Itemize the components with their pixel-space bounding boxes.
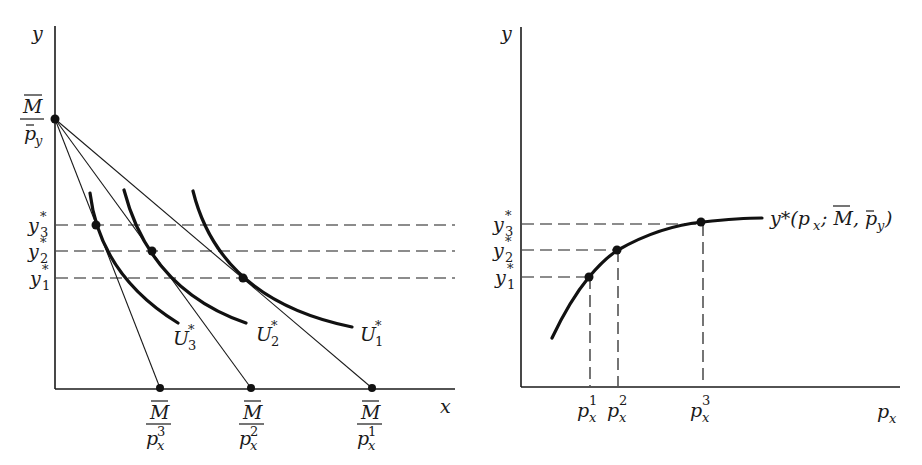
- svg-text:x: x: [368, 438, 376, 453]
- right-x-tick-px2: p 2 x: [607, 393, 627, 425]
- svg-text:2: 2: [250, 424, 258, 439]
- label-u2: U * 2: [256, 318, 279, 349]
- svg-text:x: x: [589, 410, 597, 425]
- tangency-point-3: [92, 221, 101, 230]
- svg-text:y: y: [494, 266, 506, 288]
- left-x-tick-m-over-px2: M p 2 x: [239, 401, 264, 453]
- svg-text:M: M: [22, 95, 43, 117]
- right-x-tick-px3: p 3 x: [690, 393, 710, 425]
- svg-text:1: 1: [589, 393, 597, 408]
- tangency-point-2: [148, 247, 157, 256]
- left-x-axis-label: x: [440, 395, 451, 417]
- x-intercept-1: [368, 384, 376, 392]
- x-intercept-2: [247, 384, 255, 392]
- indifference-curve-u2: [124, 190, 246, 323]
- svg-text:*: *: [42, 262, 49, 277]
- y-intercept-label: M p y: [20, 95, 44, 148]
- left-x-tick-m-over-px1: M p 1 x: [357, 401, 382, 453]
- svg-text:*: *: [505, 208, 512, 223]
- demand-point-3: [697, 218, 706, 227]
- label-u1: U * 1: [360, 318, 383, 349]
- svg-text:y: y: [27, 214, 39, 236]
- svg-text:*: *: [188, 322, 195, 337]
- demand-curve: [552, 218, 762, 338]
- svg-text:p: p: [690, 399, 702, 421]
- right-x-tick-px1: p 1 x: [577, 393, 597, 425]
- svg-text:1: 1: [368, 424, 376, 439]
- svg-text:y: y: [34, 133, 43, 148]
- budget-line-1: [55, 119, 372, 388]
- svg-text:*: *: [505, 234, 512, 249]
- x-intercept-3: [156, 384, 164, 392]
- svg-text:x: x: [250, 438, 258, 453]
- svg-text:; M, p: ; M, p: [820, 207, 877, 229]
- demand-point-1: [585, 273, 594, 282]
- svg-text:M: M: [242, 401, 263, 423]
- svg-text:3: 3: [157, 424, 165, 439]
- svg-text:x: x: [813, 218, 821, 233]
- svg-text:p: p: [607, 399, 619, 421]
- right-y-tick-y1: y * 1: [494, 261, 515, 292]
- svg-text:p: p: [577, 399, 589, 421]
- left-y-axis-label: y: [31, 22, 43, 44]
- svg-text:3: 3: [188, 338, 196, 353]
- svg-text:x: x: [157, 438, 165, 453]
- right-panel: y p x y * 3 y * 2 y * 1: [492, 22, 900, 426]
- right-x-axis-label: p x: [877, 400, 897, 426]
- svg-text:y: y: [492, 239, 504, 261]
- svg-text:x: x: [889, 411, 897, 426]
- svg-text:M: M: [149, 401, 170, 423]
- svg-text:2: 2: [271, 334, 279, 349]
- svg-text:x: x: [619, 410, 627, 425]
- svg-text:y: y: [492, 213, 504, 235]
- indifference-curve-u1: [193, 191, 352, 327]
- label-u3: U * 3: [173, 322, 196, 353]
- svg-text:3: 3: [702, 393, 710, 408]
- svg-text:y*(p: y*(p: [769, 207, 810, 229]
- svg-text:*: *: [40, 235, 47, 250]
- svg-text:1: 1: [375, 334, 383, 349]
- left-y-tick-y1: y * 1: [29, 262, 50, 293]
- svg-text:1: 1: [507, 277, 515, 292]
- svg-text:y: y: [29, 267, 41, 289]
- svg-text:M: M: [360, 401, 381, 423]
- intercept-point: [51, 115, 60, 124]
- left-panel: y x M p y y *: [20, 22, 455, 453]
- right-y-axis-label: y: [500, 22, 512, 44]
- svg-text:*: *: [40, 209, 47, 224]
- tangency-point-1: [239, 274, 248, 283]
- svg-text:*: *: [375, 318, 382, 333]
- svg-text:): ): [884, 207, 892, 229]
- demand-curve-label: y*(p x ; M, p y ): [769, 206, 892, 233]
- svg-text:*: *: [271, 318, 278, 333]
- demand-point-2: [613, 246, 622, 255]
- svg-text:2: 2: [619, 393, 627, 408]
- svg-text:y: y: [27, 240, 39, 262]
- svg-text:x: x: [702, 410, 710, 425]
- svg-text:*: *: [507, 261, 514, 276]
- demand-derivation-diagram: y x M p y y *: [0, 0, 922, 465]
- left-x-tick-m-over-px3: M p 3 x: [146, 401, 171, 453]
- svg-text:1: 1: [42, 278, 50, 293]
- svg-text:y: y: [876, 218, 885, 233]
- svg-text:p: p: [877, 400, 889, 422]
